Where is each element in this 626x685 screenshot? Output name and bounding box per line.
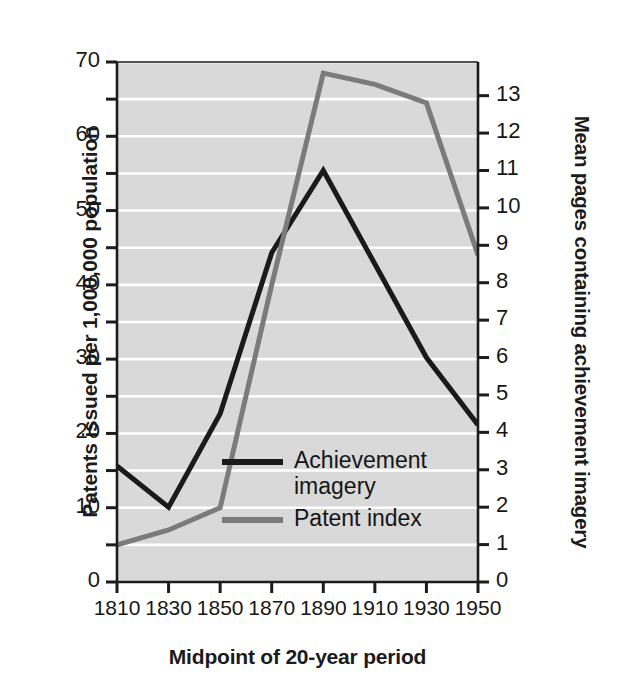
- y-axis-right-tick-label: 2: [496, 492, 536, 518]
- legend-item-patent-index: Patent index: [222, 506, 437, 534]
- y-axis-left-tick-label: 20: [54, 418, 100, 444]
- legend-line-swatch-gray: [222, 517, 283, 523]
- y-axis-left-tick-label: 70: [54, 47, 100, 73]
- y-axis-right-tick-label: 9: [496, 230, 536, 256]
- y-axis-right-tick-label: 3: [496, 455, 536, 481]
- y-axis-right-tick-label: 10: [496, 193, 536, 219]
- legend-label-patent-index: Patent index: [294, 504, 422, 532]
- y-axis-left-tick-label: 30: [54, 344, 100, 370]
- y-axis-right-tick-label: 12: [496, 118, 536, 144]
- y-axis-left-tick-label: 0: [54, 567, 100, 593]
- y-axis-right-tick-label: 7: [496, 305, 536, 331]
- x-axis-tick-label: 1950: [448, 596, 508, 620]
- y-axis-right-tick-label: 4: [496, 417, 536, 443]
- y-axis-right-tick-label: 6: [496, 343, 536, 369]
- y-axis-right-tick-label: 8: [496, 268, 536, 294]
- y-axis-left-tick-label: 60: [54, 121, 100, 147]
- legend-line-swatch-black: [222, 459, 283, 465]
- y-axis-right-tick-label: 0: [496, 567, 536, 593]
- legend-label-achievement-imagery-line1: Achievement: [294, 446, 427, 474]
- y-axis-right-tick-label: 1: [496, 530, 536, 556]
- y-axis-right-tick-label: 11: [496, 155, 536, 181]
- y-axis-right-tick-label: 13: [496, 81, 536, 107]
- chart-legend: Achievement imagery Patent index: [222, 448, 437, 534]
- y-axis-right-tick-label: 5: [496, 380, 536, 406]
- y-axis-left-tick-label: 10: [54, 493, 100, 519]
- y-axis-left-tick-label: 50: [54, 196, 100, 222]
- legend-label-achievement-imagery-line2: imagery: [294, 472, 376, 500]
- chart-figure: Patents issued per 1,000,000 population …: [0, 0, 626, 685]
- y-axis-left-tick-label: 40: [54, 270, 100, 296]
- legend-item-achievement-imagery: Achievement imagery: [222, 448, 437, 476]
